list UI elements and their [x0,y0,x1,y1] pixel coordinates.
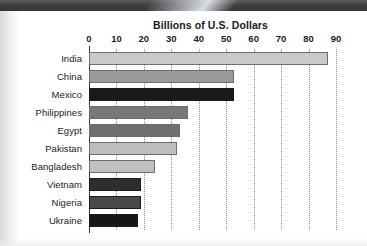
category-label: China [57,71,82,82]
bar [89,52,328,65]
category-label-row: Pakistan [18,139,87,157]
scan-left-margin-strip [0,11,12,246]
category-label-row: China [18,67,87,85]
bar-row [89,176,336,194]
category-label: Mexico [52,89,82,100]
category-label: Philippines [36,107,83,118]
bar [89,88,234,101]
bar-row [89,85,336,103]
x-axis-tick-label: 90 [331,33,342,44]
category-label: Ukraine [49,215,82,226]
bar-row [89,121,336,139]
bar-row [89,103,336,121]
bar [89,106,188,119]
x-axis-tick-label: 80 [303,33,314,44]
x-axis-tick-label: 40 [193,33,204,44]
plot-wrapper: 0102030405060708090 IndiaChinaMexicoPhil… [18,11,367,246]
bar [89,178,141,191]
category-label: Bangladesh [31,161,82,172]
x-axis-tick-label: 70 [276,33,287,44]
category-label-row: Vietnam [18,176,87,194]
bar-row [89,158,336,176]
category-label-row: Philippines [18,103,87,121]
category-label-row: India [18,49,87,67]
bar-row [89,49,336,67]
bar [89,196,141,209]
bar-row [89,212,336,230]
bar [89,70,234,83]
x-axis-tick-label: 60 [248,33,259,44]
category-label: Nigeria [52,197,82,208]
category-label-row: Mexico [18,85,87,103]
bar [89,160,155,173]
category-label-row: Egypt [18,121,87,139]
plot-area [89,49,336,230]
category-label-row: Nigeria [18,194,87,212]
chart-page: Billions of U.S. Dollars 010203040506070… [0,0,367,246]
x-axis-tick-label: 0 [86,33,91,44]
category-label: Vietnam [47,179,82,190]
scan-glare-streak [145,0,271,11]
scan-bottom-fade [0,238,367,246]
bar [89,124,180,137]
bar-rows [89,49,336,230]
x-axis-tick-label: 10 [111,33,122,44]
category-label: Egypt [57,125,82,136]
x-axis-tick-labels: 0102030405060708090 [18,33,367,47]
y-axis-category-labels: IndiaChinaMexicoPhilippinesEgyptPakistan… [18,49,87,230]
bar [89,142,177,155]
x-axis-tick-label: 20 [139,33,150,44]
gridline [336,49,337,230]
bar-row [89,67,336,85]
bar-row [89,194,336,212]
bar [89,214,138,227]
category-label-row: Bangladesh [18,158,87,176]
category-label-row: Ukraine [18,212,87,230]
bar-chart: Billions of U.S. Dollars 010203040506070… [18,11,367,246]
category-label: India [61,53,82,64]
bar-row [89,139,336,157]
x-axis-tick-label: 50 [221,33,232,44]
category-label: Pakistan [45,143,82,154]
x-axis-tick-label: 30 [166,33,177,44]
